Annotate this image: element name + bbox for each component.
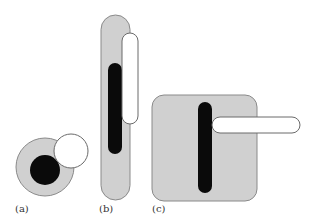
panel-a-label: (a): [15, 203, 29, 214]
white-vertical-capsule: [122, 33, 138, 124]
white-horizontal-capsule: [212, 117, 300, 133]
black-vertical-bar: [198, 102, 212, 193]
panel-b: (b): [99, 15, 138, 214]
panel-b-label: (b): [99, 203, 113, 214]
white-overlap-circle: [54, 134, 88, 168]
panel-a: (a): [15, 134, 88, 214]
diagram-canvas: (a) (b) (c): [0, 0, 313, 224]
black-vertical-bar: [108, 63, 122, 154]
black-inner-circle: [30, 155, 60, 185]
panel-c: (c): [152, 95, 300, 214]
panel-c-label: (c): [152, 203, 166, 214]
